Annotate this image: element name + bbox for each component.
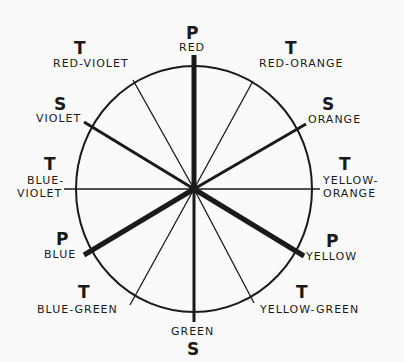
class-marker-red-orange: T <box>285 40 297 57</box>
label-orange: ORANGE <box>308 114 361 126</box>
label-blue-green: BLUE-GREEN <box>37 304 118 316</box>
label-yellow-orange-line2: ORANGE <box>323 188 376 200</box>
class-marker-blue-green: T <box>78 284 90 301</box>
label-blue-violet-line1: BLUE- <box>27 175 64 187</box>
class-marker-blue-violet: T <box>44 156 56 173</box>
class-marker-orange: S <box>322 96 334 113</box>
class-marker-violet: S <box>54 96 66 113</box>
spoke-yellow <box>194 189 304 256</box>
label-red: RED <box>179 42 205 54</box>
label-blue-violet-line2: VIOLET <box>17 188 62 200</box>
label-red-violet: RED-VIOLET <box>53 58 129 70</box>
label-violet: VIOLET <box>36 113 81 125</box>
class-marker-blue: P <box>56 231 68 248</box>
label-blue: BLUE <box>44 249 76 261</box>
spoke-violet <box>84 122 194 189</box>
spoke-blue <box>84 189 194 255</box>
class-marker-yellow: P <box>326 233 338 250</box>
spoke-red-violet <box>133 80 194 189</box>
label-red-orange: RED-ORANGE <box>259 58 343 70</box>
label-yellow-green: YELLOW-GREEN <box>260 304 359 316</box>
label-yellow: YELLOW <box>306 251 357 263</box>
class-marker-yellow-green: T <box>296 284 308 301</box>
label-green: GREEN <box>171 326 214 338</box>
wheel-center <box>190 185 198 193</box>
class-marker-red-violet: T <box>74 40 86 57</box>
spoke-orange <box>194 124 306 189</box>
class-marker-red: P <box>186 25 198 42</box>
class-marker-yellow-orange: T <box>339 156 351 173</box>
class-marker-green: S <box>187 341 199 358</box>
label-yellow-orange-line1: YELLOW- <box>323 175 379 187</box>
